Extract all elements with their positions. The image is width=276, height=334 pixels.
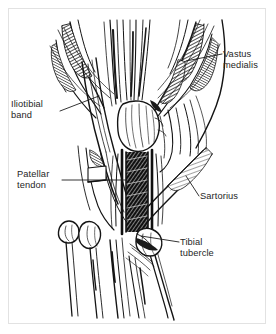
- label-patellar-tendon: Patellartendon: [17, 169, 49, 191]
- label-tibial-tubercle-line1: Tibial: [180, 237, 202, 247]
- label-patellar-tendon-line2: tendon: [17, 180, 46, 190]
- illustration-figure: Vastusmedialis Iliotibialband Patellarte…: [0, 0, 276, 334]
- label-iliotibial-band-line2: band: [11, 110, 32, 120]
- label-vastus-medialis-line1: Vastus: [223, 49, 251, 59]
- leader-line-iliotibial-band: [60, 96, 99, 111]
- label-tibial-tubercle: Tibialtubercle: [180, 237, 214, 259]
- label-patellar-tendon-line1: Patellar: [17, 169, 49, 179]
- label-iliotibial-band: Iliotibialband: [11, 99, 43, 121]
- label-tibial-tubercle-line2: tubercle: [180, 248, 214, 258]
- label-sartorius-line1: Sartorius: [200, 191, 238, 201]
- label-iliotibial-band-line1: Iliotibial: [11, 99, 43, 109]
- label-sartorius: Sartorius: [200, 191, 238, 202]
- label-vastus-medialis: Vastusmedialis: [223, 49, 258, 71]
- label-vastus-medialis-line2: medialis: [223, 60, 258, 70]
